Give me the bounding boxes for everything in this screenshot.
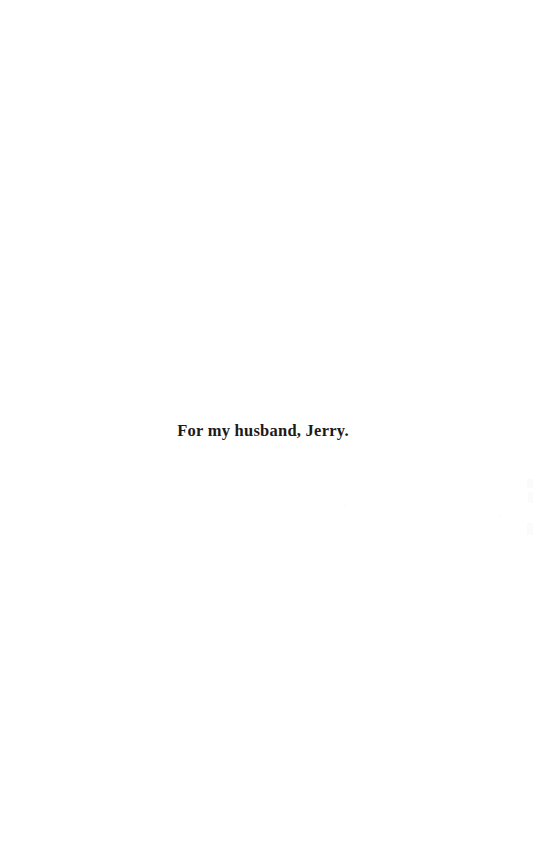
scan-artifact-speck-center (344, 504, 347, 507)
scan-artifact-speck-right (499, 514, 502, 517)
dedication-text: For my husband, Jerry. (177, 418, 349, 444)
dedication-page: For my husband, Jerry. (0, 0, 536, 867)
scan-artifact-right-edge-middle (528, 492, 533, 503)
scan-artifact-right-edge-lower (527, 523, 533, 535)
dedication-block: For my husband, Jerry. (0, 418, 526, 444)
scan-artifact-right-edge-upper (527, 479, 533, 488)
